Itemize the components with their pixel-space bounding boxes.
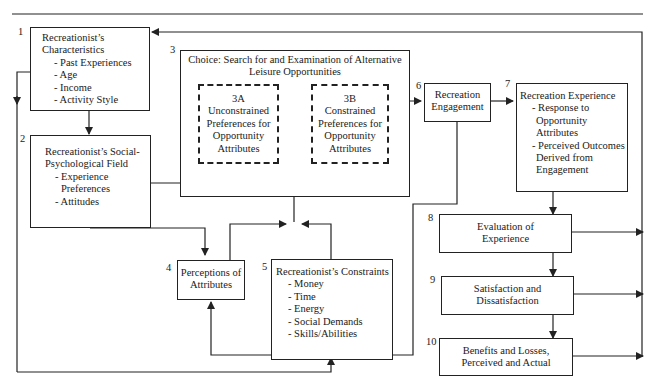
box-3a-line: Attributes <box>200 143 277 155</box>
box-2-title-line2: Psychological Field <box>45 158 150 170</box>
box-2-item: - Experience <box>45 171 150 183</box>
box-perceptions-of-attributes: Perceptions of Attributes <box>177 260 245 300</box>
box-7-item: Engagement <box>520 164 627 176</box>
box-7-item: - Perceived Outcomes <box>520 140 627 152</box>
box-7-item: Derived from <box>520 152 627 164</box>
box-7-item: - Response to <box>520 102 627 114</box>
box-3a-line: Unconstrained <box>200 105 277 117</box>
box-2-title-line1: Recreationist’s Social- <box>45 146 150 158</box>
box-9-line: Dissatisfaction <box>442 295 573 307</box>
box-1-item: - Activity Style <box>42 94 149 106</box>
box-recreationist-constraints: Recreationist’s Constraints - Money - Ti… <box>271 259 393 360</box>
box-7-title: Recreation Experience <box>520 90 627 102</box>
box-3b-line: Opportunity <box>313 130 387 142</box>
box-3-title-line2: Leisure Opportunities <box>181 66 409 78</box>
box-2-number: 2 <box>20 133 25 144</box>
box-7-item: Opportunity <box>520 115 627 127</box>
box-7-number: 7 <box>505 78 510 89</box>
box-3-number: 3 <box>170 44 175 55</box>
box-7-item: Attributes <box>520 127 627 139</box>
box-4-number: 4 <box>166 262 171 273</box>
box-5-title: Recreationist’s Constraints <box>276 266 392 278</box>
box-4-line: Attributes <box>178 279 244 291</box>
box-3a-unconstrained-preferences: 3A Unconstrained Preferences for Opportu… <box>198 84 279 164</box>
box-2-item: - Attitudes <box>45 196 150 208</box>
box-2-item: Preferences <box>45 183 150 195</box>
box-5-number: 5 <box>262 261 267 272</box>
box-satisfaction-and-dissatisfaction: Satisfaction and Dissatisfaction <box>441 276 574 315</box>
box-5-item: - Money <box>276 278 392 290</box>
box-3a-line: Opportunity <box>200 130 277 142</box>
box-1-item: - Income <box>42 82 149 94</box>
box-1-number: 1 <box>18 26 23 37</box>
box-social-psychological-field: Recreationist’s Social- Psychological Fi… <box>30 135 151 228</box>
box-3b-constrained-preferences: 3B Constrained Preferences for Opportuni… <box>311 84 389 164</box>
box-5-item: - Energy <box>276 303 392 315</box>
box-1-title-line1: Recreationist’s <box>42 32 149 44</box>
box-8-line: Experience <box>440 233 571 245</box>
box-3b-line: Attributes <box>313 143 387 155</box>
box-1-title-line2: Characteristics <box>42 44 149 56</box>
box-10-line: Benefits and Losses, <box>440 345 572 357</box>
box-3b-code: 3B <box>313 93 387 105</box>
box-recreation-experience: Recreation Experience - Response to Oppo… <box>516 83 628 192</box>
box-8-number: 8 <box>428 212 433 223</box>
box-1-item: - Age <box>42 69 149 81</box>
box-evaluation-of-experience: Evaluation of Experience <box>439 214 572 253</box>
box-6-number: 6 <box>416 80 421 91</box>
box-3a-line: Preferences for <box>200 118 277 130</box>
box-9-line: Satisfaction and <box>442 283 573 295</box>
box-5-item: - Skills/Abilities <box>276 328 392 340</box>
box-1-item: - Past Experiences <box>42 57 149 69</box>
box-3-title-line1: Choice: Search for and Examination of Al… <box>181 54 409 66</box>
box-9-number: 9 <box>430 274 435 285</box>
box-3b-line: Constrained <box>313 105 387 117</box>
box-4-line: Perceptions of <box>178 267 244 279</box>
box-8-line: Evaluation of <box>440 221 571 233</box>
box-benefits-and-losses: Benefits and Losses, Perceived and Actua… <box>439 338 573 376</box>
box-3a-code: 3A <box>200 93 277 105</box>
box-5-item: - Time <box>276 291 392 303</box>
box-5-item: - Social Demands <box>276 316 392 328</box>
box-3b-line: Preferences for <box>313 118 387 130</box>
box-recreationist-characteristics: Recreationist’s Characteristics - Past E… <box>30 27 150 111</box>
box-6-line: Engagement <box>425 101 490 113</box>
box-recreation-engagement: Recreation Engagement <box>424 83 491 122</box>
box-10-number: 10 <box>426 336 437 347</box>
box-10-line: Perceived and Actual <box>440 357 572 369</box>
box-6-line: Recreation <box>425 89 490 101</box>
